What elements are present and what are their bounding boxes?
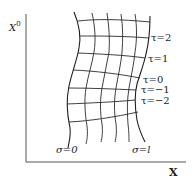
tau-curve-0 [73,70,140,78]
x-axis-label: X [169,166,178,179]
string-worldsheet-diagram: X0 X τ=2 τ=1 τ=0 τ=−1 τ=−2 σ=0 σ=l [0,0,195,182]
sigma-labels: σ=0 σ=l [56,144,150,155]
tau-curve-2 [80,36,149,38]
y-axis-label-superscript: 0 [16,20,20,28]
tau-label-1: τ=1 [148,53,168,64]
sigma-curve-5 [127,14,136,142]
sigma-curve-4 [115,14,123,142]
sigma-label-0: σ=0 [56,144,78,155]
sigma-curves [67,12,150,148]
sigma-curve-3 [101,13,110,142]
tau-labels: τ=2 τ=1 τ=0 τ=−1 τ=−2 [141,32,171,106]
tau-curve-3 [78,20,150,22]
y-axis-label: X0 [8,20,21,33]
sigma-curve-2 [85,13,95,144]
tau-label-minus-2: τ=−2 [141,95,170,106]
tau-label-minus-1: τ=−1 [141,84,170,95]
sigma-label-l: σ=l [132,144,150,155]
sigma-0-edge [67,12,80,148]
tau-label-2: τ=2 [151,32,171,43]
